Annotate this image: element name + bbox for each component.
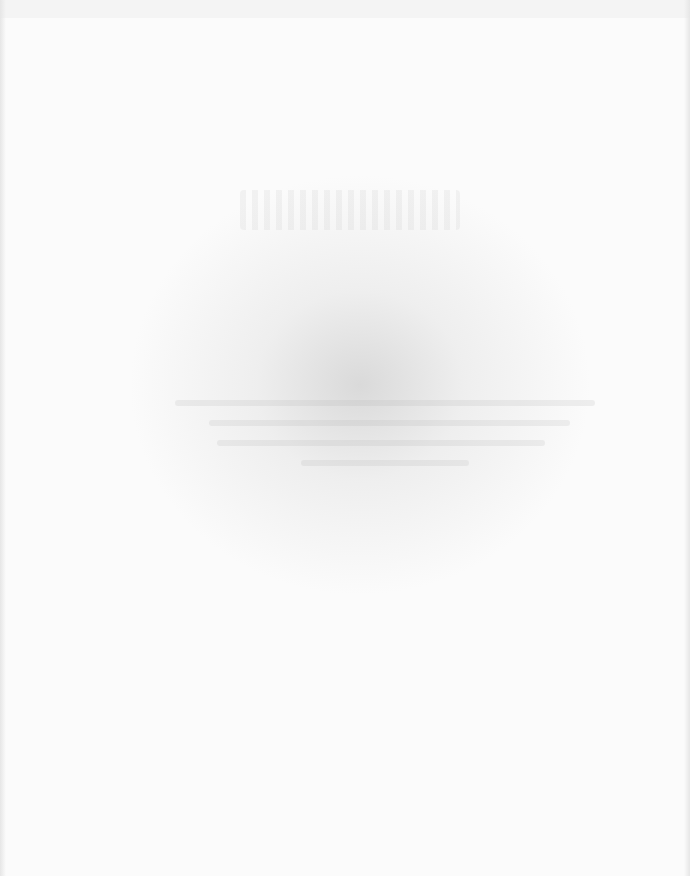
show-through-text-block	[175, 400, 595, 480]
show-through-line	[301, 460, 469, 466]
show-through-line	[175, 400, 595, 406]
page-edge-left	[0, 0, 6, 876]
show-through-ornament	[240, 190, 460, 230]
scanned-page	[0, 0, 690, 876]
show-through-line	[209, 420, 570, 426]
page-edge-right	[684, 0, 690, 876]
show-through-line	[217, 440, 545, 446]
